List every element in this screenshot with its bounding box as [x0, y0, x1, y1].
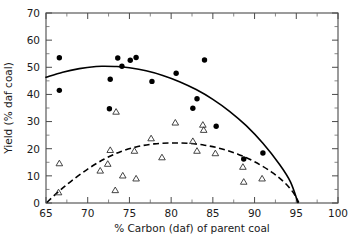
data-point-triangle — [190, 138, 197, 144]
data-point-triangle — [212, 150, 219, 156]
data-point-circle — [260, 150, 265, 155]
data-point-circle — [241, 156, 246, 161]
data-point-circle — [128, 58, 133, 63]
data-point-triangle — [107, 147, 114, 153]
x-axis-tick-labels: 65707580859095100 — [39, 207, 348, 219]
data-point-triangle — [119, 172, 126, 178]
data-point-triangle — [148, 135, 155, 141]
data-point-circle — [213, 123, 218, 128]
data-point-triangle — [200, 122, 207, 128]
data-point-triangle — [55, 189, 62, 195]
data-point-circle — [149, 79, 154, 84]
y-axis-label: Yield (% daf coal) — [2, 62, 14, 155]
solid-fit-circles — [46, 66, 298, 202]
x-tick-label-95: 95 — [290, 207, 303, 219]
data-point-circle — [57, 88, 62, 93]
data-point-circle — [194, 96, 199, 101]
x-tick-label-100: 100 — [328, 207, 348, 219]
data-point-triangle — [194, 148, 201, 154]
y-tick-label-40: 40 — [27, 88, 40, 100]
y-tick-label-70: 70 — [27, 7, 40, 19]
data-point-circle — [115, 55, 120, 60]
y-tick-label-10: 10 — [27, 170, 40, 182]
x-tick-label-75: 75 — [123, 207, 136, 219]
data-point-circle — [202, 57, 207, 62]
fit-curves — [46, 66, 299, 202]
data-point-triangle — [56, 160, 63, 166]
y-axis-tick-labels: 010203040506070 — [27, 7, 40, 209]
x-tick-label-70: 70 — [81, 207, 94, 219]
data-point-triangle — [113, 109, 120, 115]
data-point-circle — [173, 71, 178, 76]
data-point-circle — [107, 106, 112, 111]
x-tick-label-90: 90 — [248, 207, 261, 219]
data-point-triangle — [159, 154, 166, 160]
data-point-circle — [57, 55, 62, 60]
y-tick-label-60: 60 — [27, 34, 40, 46]
data-point-circle — [119, 63, 124, 68]
data-point-triangle — [112, 187, 119, 193]
data-point-triangle — [240, 164, 247, 170]
data-point-triangle — [240, 179, 247, 185]
x-axis-label: % Carbon (daf) of parent coal — [114, 222, 270, 234]
data-point-circle — [108, 77, 113, 82]
data-point-triangle — [131, 148, 138, 154]
data-point-circle — [190, 106, 195, 111]
x-tick-label-85: 85 — [206, 207, 219, 219]
x-tick-label-65: 65 — [39, 207, 52, 219]
data-point-triangle — [172, 119, 179, 125]
data-point-circle — [133, 55, 138, 60]
data-point-triangle — [97, 168, 104, 174]
y-tick-label-30: 30 — [27, 115, 40, 127]
y-tick-label-0: 0 — [33, 197, 40, 209]
data-markers — [55, 55, 265, 195]
y-tick-label-20: 20 — [27, 143, 40, 155]
chart-figure: 65707580859095100 010203040506070 % Carb… — [0, 0, 358, 238]
data-point-triangle — [259, 175, 266, 181]
scatter-plot: 65707580859095100 010203040506070 % Carb… — [0, 0, 358, 238]
data-point-triangle — [133, 175, 140, 181]
x-tick-label-80: 80 — [164, 207, 177, 219]
y-tick-label-50: 50 — [27, 61, 40, 73]
data-point-triangle — [104, 161, 111, 167]
